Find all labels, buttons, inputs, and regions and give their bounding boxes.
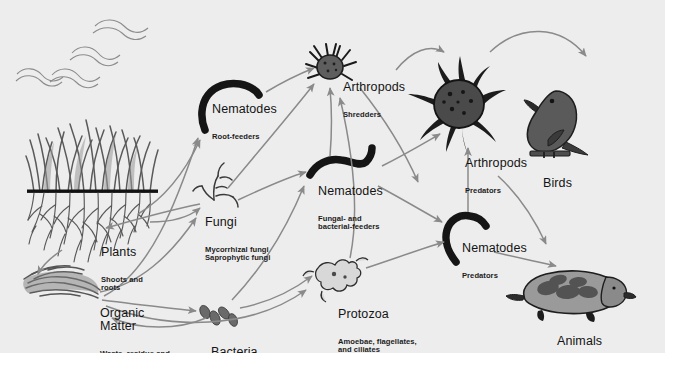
label-title: Arthropods [343, 81, 405, 94]
label-title: Nematodes [462, 242, 527, 255]
bird-icon [524, 91, 588, 158]
label-subtitle: Waste, residue and metabolites from plan… [100, 350, 171, 353]
arrow-nematodes-fb-to-arthropods-predators [382, 134, 440, 166]
label-subtitle: Shredders [343, 111, 405, 119]
label-nematodes-predators: Nematodes Predators [462, 225, 527, 296]
label-animals: Animals [557, 318, 602, 353]
arrow-plants-to-nematodes-root [138, 140, 200, 214]
label-subtitle: Predators [462, 272, 527, 280]
label-title: Nematodes [318, 185, 383, 198]
label-birds: Birds [543, 160, 572, 206]
label-protozoa: Protozoa Amoebae, flagellates, and cilia… [338, 291, 417, 353]
arrow-nematodes-fb-to-arthropods [330, 88, 332, 156]
label-title: Nematodes [212, 103, 277, 116]
label-subtitle: Fungal- and bacterial-feeders [318, 215, 383, 231]
label-subtitle: Amoebae, flagellates, and ciliates [338, 338, 417, 353]
soil-surface-line [27, 190, 158, 193]
diagram-panel: Nematodes Root-feeders Arthropods Shredd… [0, 0, 665, 353]
label-title: Arthropods [465, 157, 527, 170]
label-fungi: Fungi Mycorrhizal fungi Saprophytic fung… [205, 199, 270, 278]
label-bacteria: Bacteria [211, 329, 258, 353]
arrow-bacteria-to-protozoa [240, 276, 312, 308]
label-arthropods-predators: Arthropods Predators [465, 140, 527, 211]
label-subtitle: Root-feeders [212, 133, 277, 141]
label-nematodes-fungal-bacterial-feeders: Nematodes Fungal- and bacterial-feeders [318, 168, 383, 247]
arrow-arthropods-predators-to-birds [490, 31, 586, 56]
label-nematodes-root-feeders: Nematodes Root-feeders [212, 86, 277, 157]
label-title: Organic Matter [100, 307, 171, 333]
label-title: Fungi [205, 216, 270, 229]
arrow-fungi-to-nematodes-fb [238, 172, 306, 200]
label-organic-matter: Organic Matter Waste, residue and metabo… [100, 290, 171, 353]
soil-food-web-diagram: Nematodes Root-feeders Arthropods Shredd… [0, 0, 686, 370]
bacteria-icon [198, 304, 239, 328]
label-title: Plants [101, 246, 143, 259]
label-title: Birds [543, 177, 572, 190]
arrow-nematodes-fb-to-nematodes-predators [378, 186, 442, 222]
label-arthropods-shredders: Arthropods Shredders [343, 64, 405, 135]
label-subtitle: Mycorrhizal fungi Saprophytic fungi [205, 246, 270, 262]
flying-insects-icon [16, 20, 148, 88]
label-subtitle: Predators [465, 187, 527, 195]
label-title: Animals [557, 335, 602, 348]
label-title: Bacteria [211, 346, 258, 353]
label-title: Protozoa [338, 308, 417, 321]
